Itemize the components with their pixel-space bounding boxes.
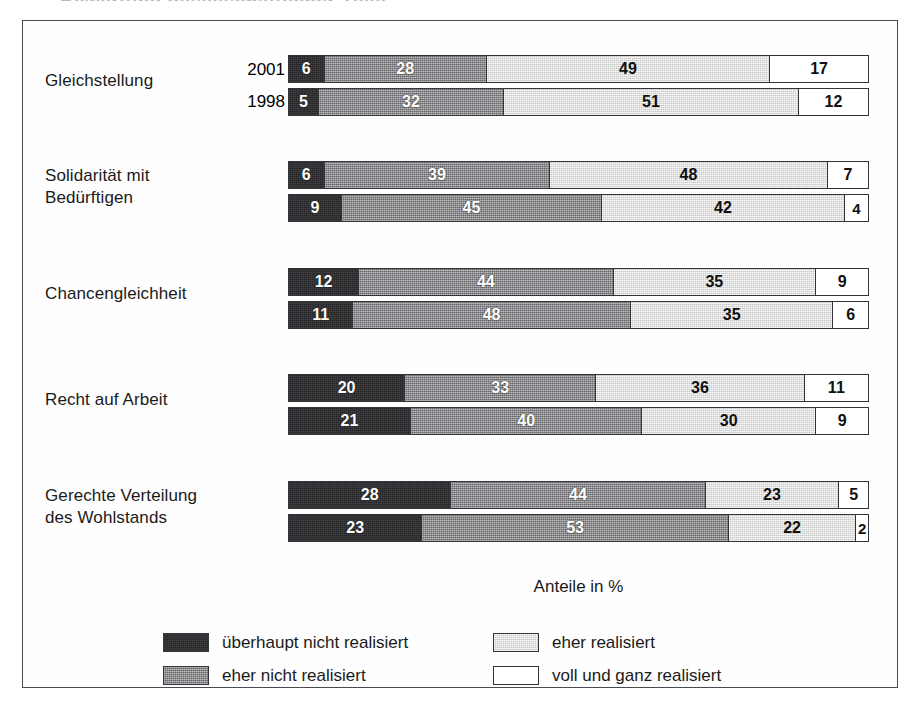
segment-value: 39 bbox=[428, 166, 446, 184]
category-label: Recht auf Arbeit bbox=[45, 389, 235, 411]
category-label: Gleichstellung bbox=[45, 70, 235, 92]
bar-segment-s0: 9 bbox=[289, 195, 341, 221]
segment-value: 12 bbox=[315, 273, 333, 291]
bar-group: Recht auf Arbeit203336112140309 bbox=[23, 374, 897, 435]
segment-value: 12 bbox=[825, 93, 843, 111]
segment-value: 40 bbox=[517, 412, 535, 430]
bar-segment-s1: 40 bbox=[410, 408, 641, 434]
segment-value: 23 bbox=[763, 486, 781, 504]
segment-value: 4 bbox=[852, 200, 860, 217]
stacked-bar: 2353222 bbox=[288, 514, 869, 542]
segment-value: 9 bbox=[838, 412, 847, 430]
stacked-bar: 6284917 bbox=[288, 55, 869, 83]
segment-value: 5 bbox=[299, 93, 308, 111]
bar-group: Chancengleichheit12443591148356 bbox=[23, 268, 897, 329]
bar-segment-s1: 45 bbox=[341, 195, 601, 221]
stacked-bar: 5325112 bbox=[288, 88, 869, 116]
segment-value: 49 bbox=[619, 60, 637, 78]
segment-value: 6 bbox=[302, 60, 311, 78]
chart-frame: Gleichstellung2001199862849175325112Soli… bbox=[22, 20, 898, 688]
legend-swatch-s3 bbox=[493, 666, 539, 685]
bar-segment-s2: 49 bbox=[486, 56, 769, 82]
legend-label: voll und ganz realisiert bbox=[552, 666, 721, 686]
bar-segment-s3: 2 bbox=[855, 515, 868, 541]
bar-segment-s1: 44 bbox=[450, 482, 704, 508]
segment-value: 36 bbox=[691, 379, 709, 397]
legend-item: voll und ganz realisiert bbox=[493, 666, 883, 686]
segment-value: 11 bbox=[828, 379, 845, 397]
category-label: Gerechte Verteilung des Wohlstands bbox=[45, 485, 235, 529]
bar-segment-s3: 4 bbox=[844, 195, 868, 221]
bar-segment-s1: 44 bbox=[358, 269, 612, 295]
legend-item: eher nicht realisiert bbox=[163, 666, 493, 686]
segment-value: 6 bbox=[302, 166, 311, 184]
bar-segment-s1: 48 bbox=[352, 302, 629, 328]
bar-segment-s2: 23 bbox=[705, 482, 838, 508]
bar-segment-s0: 21 bbox=[289, 408, 410, 434]
segment-value: 6 bbox=[846, 306, 855, 324]
segment-value: 48 bbox=[483, 306, 501, 324]
segment-value: 44 bbox=[477, 273, 495, 291]
segment-value: 9 bbox=[838, 273, 847, 291]
bar-segment-s0: 6 bbox=[289, 56, 324, 82]
legend-item: überhaupt nicht realisiert bbox=[163, 633, 493, 653]
bar-segment-s2: 22 bbox=[728, 515, 856, 541]
bar-group: Gerechte Verteilung des Wohlstands284423… bbox=[23, 481, 897, 542]
bar-group: Solidarität mit Bedürftigen639487945424 bbox=[23, 161, 897, 222]
bar-segment-s2: 48 bbox=[549, 162, 826, 188]
stacked-bar: 1244359 bbox=[288, 268, 869, 296]
bar-segment-s2: 35 bbox=[613, 269, 816, 295]
bar-segment-s3: 7 bbox=[827, 162, 868, 188]
segment-value: 9 bbox=[310, 199, 319, 217]
year-column: 20011998 bbox=[223, 55, 285, 119]
segment-value: 45 bbox=[463, 199, 481, 217]
bar-segment-s3: 12 bbox=[798, 89, 868, 115]
segment-value: 32 bbox=[402, 93, 420, 111]
legend-label: eher nicht realisiert bbox=[222, 666, 366, 686]
bar-segment-s2: 35 bbox=[630, 302, 833, 328]
bar-segment-s0: 11 bbox=[289, 302, 352, 328]
category-label: Solidarität mit Bedürftigen bbox=[45, 165, 235, 209]
segment-value: 53 bbox=[566, 519, 584, 537]
stacked-bar: 1148356 bbox=[288, 301, 869, 329]
category-label: Chancengleichheit bbox=[45, 283, 235, 305]
segment-value: 28 bbox=[396, 60, 414, 78]
cut-off-title: Bewertung gesellschaftlicher Ziele bbox=[60, 0, 880, 1]
legend-swatch-s1 bbox=[163, 666, 209, 685]
segment-value: 35 bbox=[723, 306, 741, 324]
segment-value: 28 bbox=[361, 486, 379, 504]
bar-segment-s0: 28 bbox=[289, 482, 450, 508]
segment-value: 23 bbox=[346, 519, 364, 537]
year-label: 2001 bbox=[223, 55, 285, 87]
bar-segment-s3: 6 bbox=[832, 302, 868, 328]
bar-segment-s0: 6 bbox=[289, 162, 324, 188]
segment-value: 51 bbox=[642, 93, 660, 111]
axis-caption: Anteile in % bbox=[288, 577, 869, 597]
stacked-bar: 2140309 bbox=[288, 407, 869, 435]
bar-segment-s2: 42 bbox=[601, 195, 844, 221]
bar-segment-s1: 32 bbox=[318, 89, 503, 115]
segment-value: 11 bbox=[312, 306, 329, 324]
segment-value: 21 bbox=[341, 412, 359, 430]
segment-value: 48 bbox=[680, 166, 698, 184]
segment-value: 7 bbox=[843, 166, 852, 184]
bar-segment-s1: 28 bbox=[324, 56, 486, 82]
segment-value: 35 bbox=[705, 273, 723, 291]
segment-value: 22 bbox=[783, 519, 801, 537]
bar-segment-s3: 9 bbox=[815, 408, 868, 434]
stacked-bar: 639487 bbox=[288, 161, 869, 189]
legend-swatch-s0 bbox=[163, 633, 209, 652]
segment-value: 33 bbox=[491, 379, 509, 397]
bar-segment-s0: 12 bbox=[289, 269, 358, 295]
bar-segment-s0: 23 bbox=[289, 515, 421, 541]
segment-value: 5 bbox=[849, 486, 858, 504]
bar-segment-s0: 20 bbox=[289, 375, 404, 401]
stacked-bar: 945424 bbox=[288, 194, 869, 222]
legend-label: eher realisiert bbox=[552, 633, 655, 653]
segment-value: 44 bbox=[569, 486, 587, 504]
bar-segment-s1: 53 bbox=[421, 515, 727, 541]
bar-group: Gleichstellung2001199862849175325112 bbox=[23, 55, 897, 116]
bar-segment-s3: 9 bbox=[815, 269, 868, 295]
bar-segment-s2: 51 bbox=[503, 89, 798, 115]
stacked-bar: 2844235 bbox=[288, 481, 869, 509]
